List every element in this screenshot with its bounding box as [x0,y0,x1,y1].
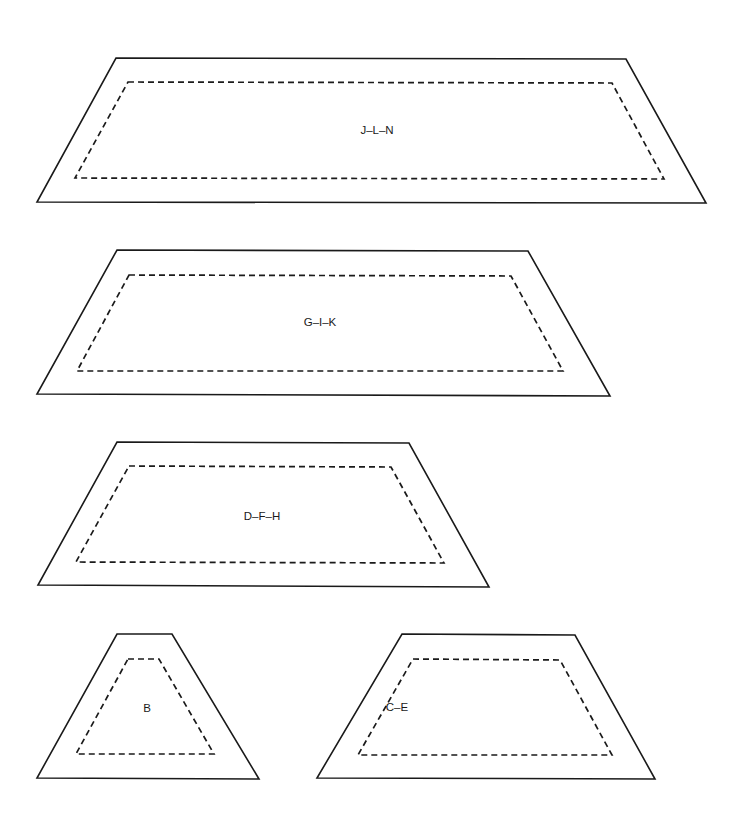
piece-dfh: D–F–H [38,442,489,587]
piece-label: C–E [386,701,409,713]
outer-cut-line [317,634,655,779]
piece-label: B [143,702,151,714]
piece-b: B [37,634,259,779]
piece-label: G–I–K [304,316,337,328]
piece-label: J–L–N [360,124,393,136]
piece-jln: J–L–N [37,58,706,203]
pattern-diagram: J–L–N G–I–K D–F–H B C–E [0,0,746,817]
piece-gik: G–I–K [37,250,610,396]
piece-ce: C–E [317,634,655,779]
piece-label: D–F–H [244,510,280,522]
